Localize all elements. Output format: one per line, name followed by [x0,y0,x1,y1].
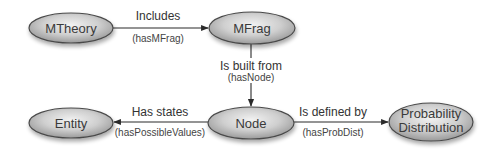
node-probability-distribution: Probability Distribution [389,103,473,141]
node-label-entity: Entity [55,116,88,131]
edge-property-hasnode: (hasNode) [228,72,275,83]
edge-label-includes: Includes [136,9,181,23]
edge-label-is-defined-by: Is defined by [299,105,367,119]
edge-property-hasprobdist: (hasProbDist) [302,127,363,138]
ontology-diagram: Includes (hasMFrag) Is built from (hasNo… [0,0,484,155]
node-label-probability: Probability [401,106,462,121]
node-label-node: Node [235,116,266,131]
node-entity: Entity [29,108,113,138]
node-label-mtheory: MTheory [45,21,97,36]
edge-label-is-built-from: Is built from [220,59,282,73]
node-label-distribution: Distribution [398,120,463,135]
node-mfrag: MFrag [209,12,295,44]
edge-has-states: Has states (hasPossibleValues) [114,105,208,138]
edge-property-haspossiblevalues: (hasPossibleValues) [115,127,205,138]
node-node: Node [208,107,294,139]
edge-label-has-states: Has states [132,105,189,119]
edge-property-hasmfrag: (hasMFrag) [132,33,184,44]
edge-is-defined-by: Is defined by (hasProbDist) [294,105,388,138]
node-mtheory: MTheory [29,13,113,43]
edge-is-built-from: Is built from (hasNode) [220,44,282,106]
edge-includes: Includes (hasMFrag) [113,9,208,44]
node-label-mfrag: MFrag [233,21,271,36]
